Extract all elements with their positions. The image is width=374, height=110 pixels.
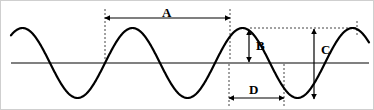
wave-diagram-figure: A B C D bbox=[0, 0, 374, 110]
measurement-label-c: C bbox=[321, 43, 331, 56]
measurement-label-a: A bbox=[162, 6, 172, 19]
guide-lines-group bbox=[105, 9, 357, 106]
measurement-label-d: D bbox=[249, 83, 259, 96]
measurement-label-b: B bbox=[256, 39, 265, 52]
wave-diagram-canvas bbox=[1, 1, 374, 110]
